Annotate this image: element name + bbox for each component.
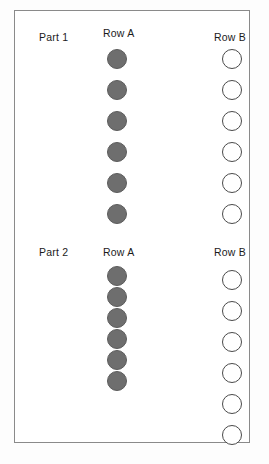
open-circle xyxy=(222,332,242,352)
filled-circle xyxy=(107,329,127,349)
part-2-row-b-circles xyxy=(222,270,242,445)
filled-circle xyxy=(107,49,127,69)
filled-circle xyxy=(107,350,127,370)
part-1-row-b-circles xyxy=(222,49,242,224)
part-1-label: Part 1 xyxy=(39,31,68,43)
open-circle xyxy=(222,80,242,100)
part-2-label: Part 2 xyxy=(39,246,68,258)
filled-circle xyxy=(107,266,127,286)
filled-circle xyxy=(107,371,127,391)
open-circle xyxy=(222,49,242,69)
filled-circle xyxy=(107,308,127,328)
filled-circle xyxy=(107,173,127,193)
filled-circle xyxy=(107,204,127,224)
part-2-row-b-label: Row B xyxy=(214,246,246,258)
open-circle xyxy=(222,425,242,445)
open-circle xyxy=(222,270,242,290)
figure-canvas: Part 1 Row A Row B Part 2 Row A Row B xyxy=(0,0,269,464)
diagram-frame: Part 1 Row A Row B Part 2 Row A Row B xyxy=(14,10,250,443)
part-2-row-a-label: Row A xyxy=(103,246,134,258)
part-1-row-b-label: Row B xyxy=(214,31,246,43)
open-circle xyxy=(222,111,242,131)
open-circle xyxy=(222,301,242,321)
part-2-row-a-circles xyxy=(107,266,127,391)
open-circle xyxy=(222,142,242,162)
open-circle xyxy=(222,363,242,383)
filled-circle xyxy=(107,142,127,162)
open-circle xyxy=(222,173,242,193)
part-1-row-a-circles xyxy=(107,49,127,224)
open-circle xyxy=(222,394,242,414)
open-circle xyxy=(222,204,242,224)
filled-circle xyxy=(107,80,127,100)
part-1-row-a-label: Row A xyxy=(103,27,134,39)
filled-circle xyxy=(107,287,127,307)
filled-circle xyxy=(107,111,127,131)
